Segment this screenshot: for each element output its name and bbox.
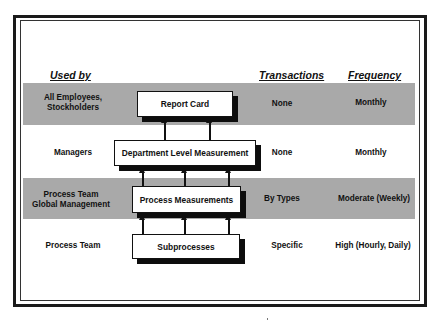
row3-used-by: Process Team Global Management [24, 190, 118, 209]
process-measurements-box: Process Measurements [132, 186, 241, 213]
report-card-box: Report Card [137, 91, 233, 117]
row3-frequency: Moderate (Weekly) [334, 194, 414, 204]
row2-used-by: Managers [28, 148, 118, 158]
row4-used-by: Process Team [28, 241, 118, 251]
row2-transactions: None [252, 148, 312, 158]
row1-transactions: None [252, 99, 312, 109]
row2-frequency: Monthly [334, 148, 408, 158]
header-transactions: Transactions [259, 69, 324, 81]
row4-transactions: Specific [262, 241, 312, 251]
row1-used-by-line1: All Employees, [28, 93, 118, 103]
row3-transactions: By Types [252, 194, 312, 204]
row1-frequency: Monthly [334, 98, 408, 108]
department-level-measurement-box: Department Level Measurement [114, 140, 256, 166]
header-used-by: Used by [50, 69, 91, 81]
header-frequency: Frequency [348, 69, 401, 81]
row4-frequency: High (Hourly, Daily) [330, 241, 416, 251]
speck [267, 318, 268, 320]
row2-used-by-line1: Managers [28, 148, 118, 158]
row1-used-by: All Employees, Stockholders [28, 93, 118, 112]
subprocesses-box: Subprocesses [132, 234, 240, 259]
row3-used-by-line1: Process Team [24, 190, 118, 200]
row4-used-by-line1: Process Team [28, 241, 118, 251]
row1-used-by-line2: Stockholders [28, 103, 118, 113]
row3-used-by-line2: Global Management [24, 200, 118, 210]
